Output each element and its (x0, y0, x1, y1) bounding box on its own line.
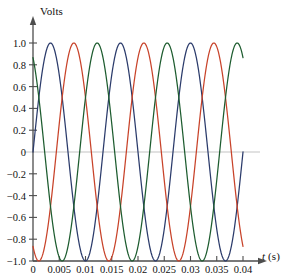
x-tick-label: 0.015 (100, 264, 124, 275)
x-tick-label: 0.04 (234, 264, 252, 275)
y-tick-label: 1.0 (13, 38, 26, 49)
x-tick-label: 0.01 (76, 264, 94, 275)
y-tick-label: −0.6 (7, 212, 26, 223)
y-tick-label: −0.2 (7, 168, 26, 179)
y-tick-label: −0.8 (7, 234, 26, 245)
x-tick-label: 0.035 (205, 264, 229, 275)
x-tick-label: 0 (30, 264, 35, 275)
x-tick-label: 0.03 (181, 264, 199, 275)
y-tick-label: 0.8 (13, 59, 26, 70)
plot-canvas (0, 0, 292, 280)
y-axis-title: Volts (40, 5, 63, 17)
y-tick-label: −0.4 (7, 190, 26, 201)
x-tick-label: 0.005 (47, 264, 71, 275)
y-tick-label: 0 (21, 147, 26, 158)
y-tick-label: 0.6 (13, 81, 26, 92)
x-tick-label: 0.02 (129, 264, 147, 275)
y-tick-label: −1.0 (7, 256, 26, 267)
chart-figure: Volts t (s) 1.00.80.60.40.20−0.2−0.4−0.6… (0, 0, 292, 280)
y-tick-label: 0.2 (13, 125, 26, 136)
y-tick-label: 0.4 (13, 103, 26, 114)
x-axis-title: t (s) (262, 250, 280, 262)
x-tick-label: 0.025 (152, 264, 176, 275)
